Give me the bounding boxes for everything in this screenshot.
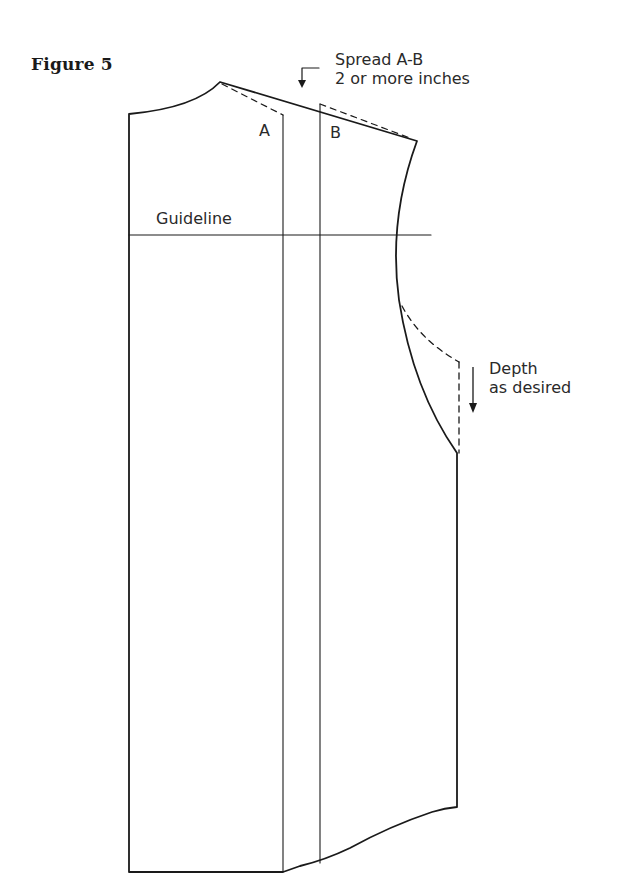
spread-arrow-head-icon — [298, 80, 306, 88]
label-guideline: Guideline — [156, 209, 232, 228]
pattern-outline — [129, 82, 457, 872]
depth-annotation-line2: as desired — [489, 378, 571, 397]
label-b: B — [330, 123, 341, 142]
spread-annotation: Spread A-B 2 or more inches — [335, 50, 470, 88]
spread-arrow-line — [302, 68, 319, 82]
original-shoulder-dashed-a — [222, 84, 283, 115]
label-a: A — [259, 121, 270, 140]
depth-annotation: Depth as desired — [489, 359, 571, 397]
depth-annotation-line1: Depth — [489, 359, 571, 378]
depth-arrow-head-icon — [469, 403, 477, 413]
spread-annotation-line1: Spread A-B — [335, 50, 470, 69]
pattern-diagram — [0, 0, 619, 878]
spread-annotation-line2: 2 or more inches — [335, 69, 470, 88]
